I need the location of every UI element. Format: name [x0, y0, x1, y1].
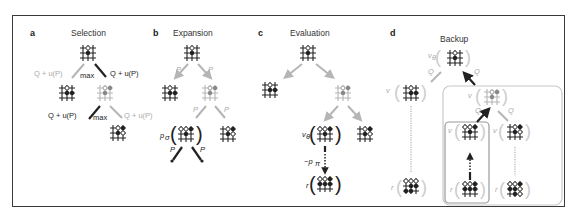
- paren-left: (: [394, 82, 400, 102]
- board-icon: [202, 85, 218, 101]
- board-icon: [335, 85, 351, 101]
- paren-left: (: [454, 179, 460, 199]
- panel-expansion: b Expansion P P P P p σ ( ): [153, 28, 236, 163]
- board-icon: [484, 89, 500, 105]
- edge-label-p: P: [200, 145, 205, 154]
- rollout-subscript: π: [315, 159, 321, 168]
- board-icon: [507, 181, 523, 197]
- max-label: max: [93, 113, 107, 122]
- edge-label-p: P: [193, 105, 198, 114]
- edge-label-selected: Q + u(P): [48, 111, 77, 120]
- paren-left: (: [454, 121, 460, 141]
- edge-label-grey: Q + u(P): [34, 69, 63, 78]
- board-icon: [507, 124, 523, 140]
- panel-selection: a Selection Q + u(P) max Q + u(P) Q + u(…: [30, 28, 153, 141]
- paren-left: (: [498, 121, 504, 141]
- board-icon: [80, 45, 96, 61]
- value-label: v: [448, 126, 453, 135]
- board-icon: [97, 85, 113, 101]
- paren-left: (: [170, 123, 177, 145]
- edge-label-q: Q: [475, 106, 481, 115]
- panel-backup: d Backup v θ ( ) Q Q v ( ) r ( ) v (: [386, 28, 562, 205]
- board-icon: [447, 50, 463, 66]
- paren-right: ): [421, 177, 427, 197]
- board-icon: [110, 125, 126, 141]
- board-icon: [262, 82, 278, 98]
- edge-label-q: Q: [428, 67, 434, 76]
- paren-left: (: [309, 123, 316, 145]
- panel-title-backup: Backup: [440, 34, 469, 44]
- paren-left: (: [435, 47, 441, 67]
- panel-title-evaluation: Evaluation: [290, 28, 330, 38]
- paren-left: (: [396, 177, 402, 197]
- board-icon: [59, 85, 75, 101]
- reward-label: r: [391, 183, 394, 192]
- board-icon: [317, 176, 333, 192]
- edge-label-grey: Q + u(P): [124, 111, 153, 120]
- edge-label-p: P: [224, 105, 229, 114]
- board-icon: [162, 85, 178, 101]
- board-icon: [184, 45, 200, 61]
- paren-right: ): [525, 179, 531, 199]
- edge-label-p: P: [176, 65, 181, 74]
- panel-title-expansion: Expansion: [173, 28, 213, 38]
- paren-right: ): [196, 123, 203, 145]
- edge-label-q: Q: [474, 67, 480, 76]
- policy-label: p: [159, 131, 164, 140]
- edge-label-q: Q: [508, 106, 514, 115]
- board-icon: [178, 126, 194, 142]
- paren-left: (: [309, 173, 316, 195]
- rollout-label: ~p: [304, 157, 313, 166]
- max-label: max: [80, 71, 94, 80]
- paren-right: ): [525, 121, 531, 141]
- panel-letter-a: a: [30, 28, 36, 38]
- value-label: v: [386, 86, 391, 95]
- paren-right: ): [335, 123, 342, 145]
- board-icon: [220, 126, 236, 142]
- value-label: v: [468, 91, 473, 100]
- edge-label-p: P: [170, 145, 175, 154]
- panel-letter-c: c: [258, 28, 263, 38]
- panel-letter-d: d: [390, 28, 396, 38]
- panel-evaluation: c Evaluation v θ ( ) ~p π r: [258, 28, 373, 195]
- paren-left: (: [475, 86, 481, 106]
- board-icon: [300, 45, 316, 61]
- board-icon: [357, 126, 373, 142]
- reward-label: r: [495, 185, 498, 194]
- paren-right: ): [421, 82, 427, 102]
- paren-right: ): [502, 86, 508, 106]
- reward-label: r: [450, 185, 453, 194]
- mcts-diagram: a Selection Q + u(P) max Q + u(P) Q + u(…: [0, 0, 577, 222]
- paren-right: ): [480, 121, 486, 141]
- board-icon: [317, 126, 333, 142]
- paren-right: ): [335, 173, 342, 195]
- board-icon: [403, 178, 419, 194]
- panel-title-selection: Selection: [71, 28, 106, 38]
- board-icon: [462, 181, 478, 197]
- edge-label-selected: Q + u(P): [110, 69, 139, 78]
- board-icon: [403, 85, 419, 101]
- board-icon: [462, 124, 478, 140]
- panel-letter-b: b: [153, 28, 159, 38]
- edge-label-p: P: [208, 65, 213, 74]
- paren-right: ): [465, 47, 471, 67]
- paren-left: (: [499, 179, 505, 199]
- paren-right: ): [480, 179, 486, 199]
